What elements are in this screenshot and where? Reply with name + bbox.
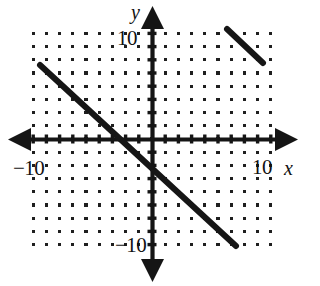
grid-dot (84, 71, 87, 74)
grid-dot (71, 151, 74, 154)
grid-dot (58, 177, 61, 180)
grid-dot (190, 98, 193, 101)
grid-dot (164, 243, 167, 246)
grid-dot (58, 230, 61, 233)
grid-dot (216, 32, 219, 35)
grid-dot (98, 71, 101, 74)
grid-dot (124, 98, 127, 101)
grid-dot (230, 217, 233, 220)
grid-dot (84, 230, 87, 233)
y-axis-max-tick-label: 10 (117, 28, 137, 49)
grid-dot (164, 71, 167, 74)
grid-dot (111, 45, 114, 48)
grid-dot (84, 203, 87, 206)
y-axis-arrow-up-icon (141, 6, 164, 29)
grid-dot (256, 203, 259, 206)
grid-dot (137, 177, 140, 180)
grid-dot (243, 190, 246, 193)
grid-dot (98, 190, 101, 193)
grid-dot (45, 111, 48, 114)
grid-dot (58, 111, 61, 114)
grid-dot (203, 230, 206, 233)
grid-dot (58, 190, 61, 193)
grid-dot (137, 217, 140, 220)
grid-dot (164, 151, 167, 154)
grid-dot (243, 32, 246, 35)
grid-dot (177, 164, 180, 167)
grid-dot (32, 58, 35, 61)
grid-dot (216, 58, 219, 61)
grid-dot (243, 243, 246, 246)
grid-dot (190, 111, 193, 114)
grid-dot (203, 124, 206, 127)
grid-dot (203, 71, 206, 74)
grid-dot (269, 71, 272, 74)
grid-dot (124, 203, 127, 206)
grid-dot (230, 203, 233, 206)
grid-dot (243, 203, 246, 206)
grid-dot (98, 243, 101, 246)
grid-dot (98, 151, 101, 154)
grid-dot (45, 151, 48, 154)
grid-dot (190, 151, 193, 154)
grid-dot (190, 71, 193, 74)
grid-dot (177, 45, 180, 48)
grid-dot (216, 243, 219, 246)
grid-dot (164, 98, 167, 101)
grid-dot (230, 111, 233, 114)
grid-dot (216, 151, 219, 154)
grid-dot (124, 58, 127, 61)
grid-dot (177, 85, 180, 88)
grid-dot (243, 177, 246, 180)
grid-dot (58, 203, 61, 206)
grid-dot (71, 71, 74, 74)
grid-dot (84, 243, 87, 246)
grid-dot (269, 85, 272, 88)
grid-dot (269, 124, 272, 127)
grid-dot (256, 71, 259, 74)
grid-dot (164, 217, 167, 220)
grid-dot (124, 85, 127, 88)
grid-dot (58, 151, 61, 154)
grid-dot (32, 111, 35, 114)
grid-dot (243, 164, 246, 167)
grid-dot (269, 203, 272, 206)
grid-dot (203, 151, 206, 154)
grid-dot (137, 203, 140, 206)
grid-dot (256, 98, 259, 101)
grid-dot (84, 177, 87, 180)
grid-dot (111, 85, 114, 88)
grid-dot (111, 58, 114, 61)
grid-dot (124, 71, 127, 74)
grid-dot (190, 217, 193, 220)
grid-dot (98, 45, 101, 48)
grid-dot (98, 58, 101, 61)
grid-dot (177, 203, 180, 206)
grid-dot (98, 217, 101, 220)
grid-dot (32, 124, 35, 127)
grid-dot (164, 58, 167, 61)
grid-dot (177, 111, 180, 114)
grid-dot (177, 124, 180, 127)
grid-dot (177, 217, 180, 220)
grid-dot (124, 151, 127, 154)
x-axis-variable-label: x (284, 158, 293, 178)
grid-dot (190, 243, 193, 246)
grid-dot (203, 177, 206, 180)
grid-dot (111, 98, 114, 101)
grid-dot (177, 230, 180, 233)
grid-dot (256, 124, 259, 127)
grid-dot (58, 45, 61, 48)
grid-dot (230, 58, 233, 61)
grid-dot (111, 203, 114, 206)
grid-dot (32, 217, 35, 220)
grid-dot (190, 58, 193, 61)
grid-dot (243, 230, 246, 233)
grid-dot (137, 111, 140, 114)
grid-dot (256, 190, 259, 193)
grid-dot (203, 190, 206, 193)
grid-dot (190, 164, 193, 167)
grid-dot (111, 230, 114, 233)
grid-dot (45, 32, 48, 35)
grid-dot (32, 230, 35, 233)
